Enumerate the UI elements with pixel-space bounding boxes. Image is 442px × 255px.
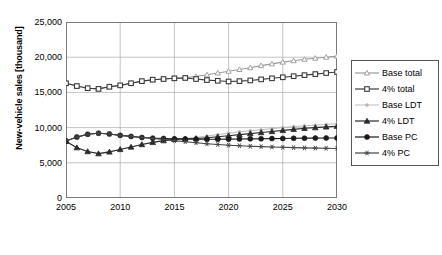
legend-item-3[interactable]: 4% LDT: [354, 113, 435, 129]
chart-figure: New-vehicle sales [thousand] 05,00010,00…: [0, 0, 442, 255]
data-point-open-square: [205, 78, 210, 83]
plot-area: [66, 22, 337, 198]
legend-item-2[interactable]: Base LDT: [354, 97, 435, 113]
data-point-asterisk: [291, 145, 296, 150]
data-point-filled-circle: [269, 136, 274, 141]
data-point-open-square: [270, 76, 275, 81]
data-point-open-square: [129, 81, 134, 86]
y-axis-tick: 20,000: [16, 53, 62, 62]
data-point-open-square: [324, 71, 329, 76]
plot-frame: [67, 23, 337, 198]
data-point-filled-circle: [280, 136, 285, 141]
y-axis-tick: 10,000: [16, 124, 62, 133]
legend-marker-filled-circle-icon: [354, 130, 380, 144]
x-axis-tick: 2020: [209, 203, 249, 212]
legend-marker-open-square-icon: [354, 82, 380, 96]
data-point-open-square: [85, 86, 90, 91]
data-point-open-square: [161, 77, 166, 82]
legend-item-0[interactable]: Base total: [354, 65, 435, 81]
data-point-open-square: [281, 75, 286, 80]
x-axis-tick: 2025: [263, 203, 303, 212]
x-axis-tick: 2030: [317, 203, 357, 212]
legend-label-3: 4% LDT: [380, 117, 415, 126]
legend-marker-open-triangle-icon: [354, 66, 380, 80]
plot-svg: [66, 22, 337, 198]
data-point-asterisk: [237, 143, 242, 148]
series-1: [66, 70, 337, 91]
x-axis-tick: 2010: [100, 203, 140, 212]
data-point-open-square: [237, 79, 242, 84]
data-point-asterisk: [248, 144, 253, 149]
x-axis-tick: 2005: [46, 203, 86, 212]
data-point-open-square: [172, 76, 177, 81]
data-point-open-square: [140, 79, 145, 84]
data-point-open-square: [248, 78, 253, 83]
legend-label-5: 4% PC: [380, 149, 410, 158]
legend-marker-small-dot-icon: [354, 98, 380, 112]
legend-item-5[interactable]: 4% PC: [354, 145, 435, 161]
data-point-open-square: [335, 70, 337, 75]
data-point-open-square: [313, 72, 318, 77]
data-point-open-square: [183, 76, 188, 81]
series-line: [66, 133, 337, 148]
x-axis-tick: 2015: [154, 203, 194, 212]
data-point-asterisk: [313, 146, 318, 151]
data-point-filled-circle: [194, 137, 199, 142]
data-point-filled-circle: [237, 137, 242, 142]
data-point-asterisk: [269, 145, 274, 150]
data-point-asterisk: [334, 146, 337, 151]
data-point-filled-circle: [259, 136, 264, 141]
data-point-open-square: [194, 77, 199, 82]
data-point-open-square: [150, 77, 155, 82]
chart-legend: Base total4% totalBase LDT4% LDTBase PC4…: [351, 60, 439, 166]
series-5: [66, 131, 337, 151]
data-point-open-square: [302, 73, 307, 78]
data-point-filled-circle: [335, 135, 338, 140]
data-point-asterisk: [323, 146, 328, 151]
data-point-open-square: [75, 84, 80, 89]
data-point-open-square: [107, 84, 112, 89]
data-point-asterisk: [364, 151, 369, 156]
x-axis-tick-labels: 200520102015202020252030: [0, 203, 442, 217]
series-line: [66, 126, 337, 153]
data-point-filled-circle: [226, 137, 231, 142]
data-point-filled-circle: [313, 136, 318, 141]
data-point-filled-circle: [215, 137, 220, 142]
legend-label-2: Base LDT: [380, 101, 422, 110]
data-point-filled-circle: [324, 136, 329, 141]
data-point-open-square: [215, 78, 220, 83]
legend-label-4: Base PC: [380, 133, 418, 142]
data-point-open-square: [96, 87, 101, 92]
data-point-open-square: [259, 77, 264, 82]
legend-label-1: 4% total: [380, 85, 415, 94]
y-axis-tick: 5,000: [16, 159, 62, 168]
legend-marker-asterisk-icon: [354, 146, 380, 160]
y-axis-tick: 15,000: [16, 88, 62, 97]
data-point-filled-circle: [204, 137, 209, 142]
y-axis-tick: 25,000: [16, 18, 62, 27]
data-point-asterisk: [302, 146, 307, 151]
data-point-open-square: [118, 83, 123, 88]
data-point-asterisk: [258, 144, 263, 149]
data-point-filled-circle: [248, 136, 253, 141]
data-point-open-square: [365, 87, 370, 92]
data-point-filled-circle: [291, 136, 296, 141]
data-point-open-square: [66, 81, 68, 86]
data-point-filled-circle: [365, 135, 370, 140]
data-point-asterisk: [215, 142, 220, 147]
data-point-filled-triangle: [74, 145, 80, 150]
legend-item-4[interactable]: Base PC: [354, 129, 435, 145]
data-point-small-dot: [366, 104, 369, 107]
data-point-filled-circle: [302, 136, 307, 141]
legend-item-1[interactable]: 4% total: [354, 81, 435, 97]
data-point-open-square: [291, 74, 296, 79]
data-point-open-square: [226, 79, 231, 84]
data-point-asterisk: [204, 141, 209, 146]
legend-marker-filled-triangle-icon: [354, 114, 380, 128]
legend-label-0: Base total: [380, 69, 422, 78]
